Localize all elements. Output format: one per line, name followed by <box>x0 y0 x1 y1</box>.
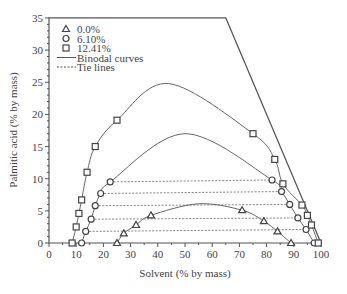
svg-text:10: 10 <box>71 248 83 260</box>
svg-text:50: 50 <box>180 248 192 260</box>
svg-text:10: 10 <box>32 173 44 185</box>
x-axis-label: Solvent (% by mass) <box>139 267 231 280</box>
svg-text:25: 25 <box>32 76 44 88</box>
svg-text:100: 100 <box>313 248 330 260</box>
svg-text:0: 0 <box>46 248 52 260</box>
svg-text:30: 30 <box>125 248 137 260</box>
svg-text:5: 5 <box>38 205 44 217</box>
svg-text:20: 20 <box>98 248 110 260</box>
svg-text:60: 60 <box>207 248 219 260</box>
tie-lines <box>86 180 306 231</box>
svg-text:90: 90 <box>288 248 300 260</box>
svg-text:70: 70 <box>234 248 246 260</box>
phase-diagram-chart: 010203040506070809010005101520253035 0.0… <box>0 0 347 294</box>
y-axis-label: Palmitic acid (% by mass) <box>7 72 20 188</box>
svg-text:40: 40 <box>152 248 164 260</box>
legend: 0.0%6.10%12.41%Binodal curvesTie lines <box>57 23 143 73</box>
svg-text:20: 20 <box>32 108 44 120</box>
svg-text:80: 80 <box>261 248 273 260</box>
data-markers <box>69 117 321 246</box>
svg-text:0: 0 <box>38 237 44 249</box>
svg-text:15: 15 <box>32 141 44 153</box>
svg-text:Tie lines: Tie lines <box>77 61 115 73</box>
svg-text:30: 30 <box>32 44 44 56</box>
svg-text:35: 35 <box>32 12 44 24</box>
